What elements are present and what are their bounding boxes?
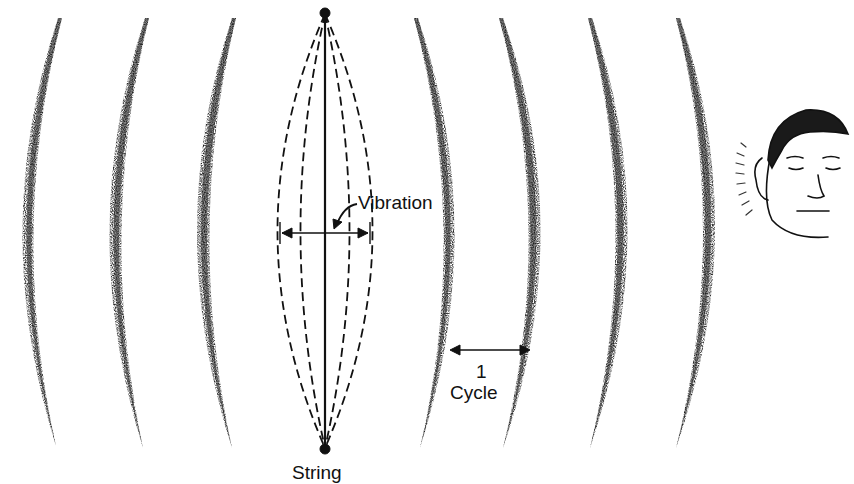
vibration-label: Vibration [358,193,433,212]
string-label: String [292,463,342,482]
diagram-canvas [0,0,854,484]
string-top-anchor [320,8,330,18]
cycle-word-label: Cycle [450,383,498,402]
sound-wave-diagram: Vibration 1 Cycle String [0,0,854,484]
eye-right-closed [826,168,840,170]
string-bottom-anchor [320,444,330,454]
cycle-arrow [450,345,530,355]
string-envelope-inner-right [325,14,350,448]
string-envelope-inner-left [301,14,326,448]
cycle-number-label: 1 [476,362,487,381]
nose [808,175,824,198]
hair [768,110,848,168]
eye-left-closed [789,168,803,170]
eyebrow-right [823,157,839,159]
listener-face-icon [755,110,848,238]
sound-lines-icon [736,143,752,215]
eyebrow-left [787,157,803,159]
